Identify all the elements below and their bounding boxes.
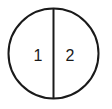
- divided-circle-diagram: 1 2: [0, 0, 112, 109]
- region-2-label: 2: [66, 47, 75, 64]
- region-1-label: 1: [34, 47, 43, 64]
